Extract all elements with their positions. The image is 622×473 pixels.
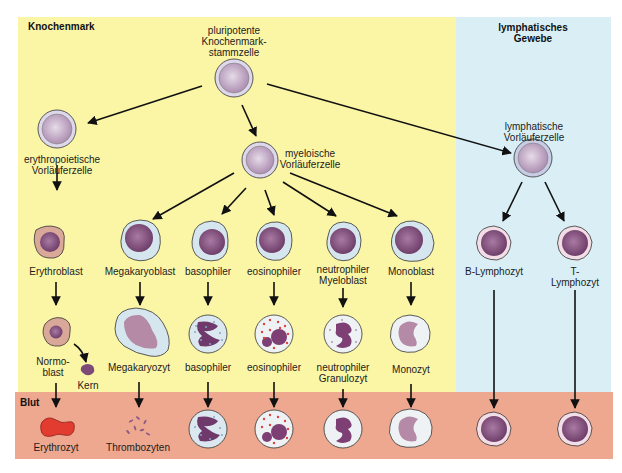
stem-cell-label: pluripotente Knochenmark- stammzelle — [201, 25, 266, 58]
kern-label: Kern — [77, 380, 98, 391]
myeloid-progenitor-icon — [242, 142, 278, 178]
neutrophil-myeloblast-icon — [327, 222, 361, 261]
lymphatic-region — [456, 17, 611, 393]
basophil-blast-icon — [192, 221, 228, 261]
b-lymphocyte-icon — [477, 226, 512, 260]
erythro-progenitor-icon — [38, 110, 76, 148]
erythroblast-icon — [34, 226, 64, 258]
diagram-canvas — [0, 0, 622, 473]
lymphoid-progenitor-label: lymphatische Vorläuferzelle — [504, 121, 565, 143]
basophil-icon — [189, 315, 227, 353]
b-lymphocyte-label: B-Lymphozyt — [465, 266, 523, 277]
monocyte-label: Monozyt — [392, 364, 430, 375]
basophil-label: basophiler — [185, 362, 231, 373]
neutrophil-label: neutrophiler Granulozyt — [317, 362, 370, 384]
blood-t-lymphocyte-icon — [558, 412, 593, 446]
lymphatic-tissue-label: lymphatisches Gewebe — [498, 22, 567, 44]
t-lymphocyte-label: T-Lymphozyt — [551, 266, 599, 288]
eosinophil-blast-icon — [256, 222, 292, 260]
blood-region — [15, 392, 613, 459]
blood-monocyte-icon — [389, 409, 432, 447]
eosinophil-blast-label: eosinophiler — [247, 266, 301, 277]
lymphoid-progenitor-icon — [514, 139, 552, 177]
megakaryoblast-label: Megakaryoblast — [105, 266, 176, 277]
megakaryoblast-icon — [121, 220, 160, 261]
erythro-progenitor-label: erythropoietische Vorläuferzelle — [24, 154, 100, 176]
myeloid-progenitor-label: myeloische Vorläuferzelle — [280, 148, 341, 170]
erythroblast-label: Erythroblast — [29, 266, 82, 277]
bone-marrow-label: Knochenmark — [28, 21, 95, 32]
monocyte-icon — [390, 315, 430, 352]
neutrophil-myeloblast-label: neutrophiler Myeloblast — [317, 264, 370, 286]
blood-b-lymphocyte-icon — [477, 412, 512, 446]
normoblast-icon — [43, 318, 70, 347]
eosinophil-label: eosinophiler — [247, 362, 301, 373]
basophil-blast-label: basophiler — [185, 266, 231, 277]
blood-basophil-icon — [189, 410, 227, 448]
blood-eosinophil-icon — [255, 410, 293, 448]
monoblast-label: Monoblast — [388, 266, 434, 277]
megakaryocyte-label: Megakaryozyt — [108, 362, 170, 373]
hematopoiesis-diagram: Knochenmark lymphatisches Gewebe Blut pl… — [0, 0, 622, 473]
normoblast-label: Normo- blast — [36, 356, 69, 378]
neutrophil-icon — [324, 315, 362, 353]
t-lymphocyte-icon — [558, 226, 593, 260]
erythrocyte-label: Erythrozyt — [33, 442, 78, 453]
blood-label: Blut — [20, 397, 39, 408]
blood-neutrophil-icon — [324, 410, 362, 448]
eosinophil-icon — [255, 315, 293, 353]
stem-cell-icon — [215, 59, 253, 97]
thrombocytes-label: Thrombozyten — [106, 442, 170, 453]
